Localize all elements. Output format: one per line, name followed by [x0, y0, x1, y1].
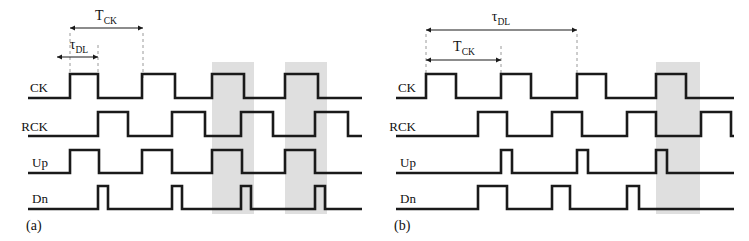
panel-a-canvas: TCKτDLCKRCKUpDn(a) [0, 0, 375, 241]
dimension-tau_dl-b: τDL [426, 9, 577, 33]
arrowhead-right [572, 27, 577, 32]
arrowhead-left [426, 27, 431, 32]
dimension-tau_dl-a: τDL [57, 37, 98, 60]
panel-b: τDLTCKCKRCKUpDn(b) [374, 0, 749, 241]
arrowhead-left [57, 54, 62, 59]
arrowhead-right [138, 25, 143, 30]
dimension-label-t_ck: TCK [95, 8, 117, 26]
signal-label-rck-b: RCK [389, 119, 416, 134]
dimension-subscript: CK [462, 47, 475, 57]
dimension-t_ck-a: TCK [70, 8, 143, 31]
timing-diagram-figure: TCKτDLCKRCKUpDn(a) τDLTCKCKRCKUpDn(b) [0, 0, 749, 241]
signal-label-ck-b: CK [398, 80, 417, 95]
dimension-label-t_ck: TCK [453, 39, 475, 57]
dimension-subscript: DL [497, 17, 510, 27]
arrowhead-right [93, 54, 98, 59]
arrowhead-right [496, 57, 501, 62]
panel-label-a: (a) [26, 218, 42, 234]
dimension-subscript: CK [104, 16, 117, 26]
highlight-band-b-1 [656, 62, 700, 214]
panel-label-b: (b) [394, 218, 411, 234]
highlight-band-a-2 [285, 62, 327, 214]
panel-a: TCKτDLCKRCKUpDn(a) [0, 0, 375, 241]
panel-b-canvas: τDLTCKCKRCKUpDn(b) [374, 0, 749, 241]
arrowhead-left [70, 25, 75, 30]
dimension-label-tau_dl: τDL [70, 37, 89, 55]
dimension-label-tau_dl: τDL [492, 9, 511, 27]
highlight-band-a-1 [212, 62, 254, 214]
signal-label-dn-b: Dn [400, 191, 416, 206]
signal-label-ck-a: CK [30, 80, 49, 95]
arrowhead-left [426, 57, 431, 62]
dimension-t_ck-b: TCK [426, 39, 501, 63]
signal-label-up-b: Up [400, 155, 416, 170]
signal-label-dn-a: Dn [32, 191, 48, 206]
dimension-subscript: DL [75, 45, 88, 55]
signal-label-up-a: Up [32, 155, 48, 170]
signal-label-rck-a: RCK [21, 119, 48, 134]
